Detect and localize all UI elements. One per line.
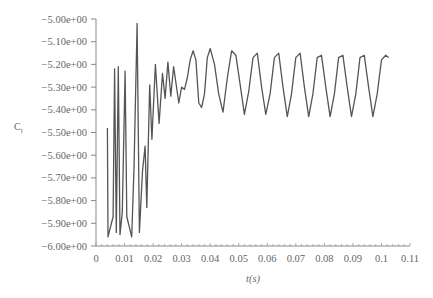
x-tick-label: 0.1 (375, 253, 388, 264)
x-tick-label: 0.09 (344, 253, 362, 264)
x-axis-title: t(s) (246, 273, 261, 285)
x-tick-label: 0.06 (258, 253, 276, 264)
y-tick-label: −5.80e+00 (42, 195, 87, 206)
lift-coefficient-chart: −5.00e+00−5.10e+00−5.20e+00−5.30e+00−5.4… (0, 0, 433, 298)
y-tick-label: −5.20e+00 (42, 59, 87, 70)
plot-area (107, 24, 388, 237)
y-tick-label: −5.40e+00 (42, 104, 87, 115)
x-tick-label: 0.07 (287, 253, 305, 264)
data-series-line (107, 24, 388, 237)
x-tick-label: 0.01 (115, 253, 133, 264)
x-tick-label: 0.03 (172, 253, 190, 264)
y-tick-label: −6.00e+00 (42, 241, 87, 252)
y-tick-label: −5.50e+00 (42, 127, 87, 138)
y-tick-label: −5.30e+00 (42, 82, 87, 93)
y-tick-label: −5.90e+00 (42, 218, 87, 229)
x-tick-label: 0.05 (230, 253, 248, 264)
y-tick-label: −5.60e+00 (42, 150, 87, 161)
y-tick-label: −5.00e+00 (42, 14, 87, 25)
y-axis-title: Cl (14, 121, 23, 135)
x-axis: 00.010.020.030.040.050.060.070.080.090.1… (93, 243, 419, 264)
x-tick-label: 0.08 (315, 253, 333, 264)
y-tick-label: −5.10e+00 (42, 36, 87, 47)
y-axis: −5.00e+00−5.10e+00−5.20e+00−5.30e+00−5.4… (42, 14, 96, 252)
x-tick-label: 0 (93, 253, 98, 264)
x-tick-label: 0.02 (144, 253, 162, 264)
x-tick-label: 0.04 (201, 253, 220, 264)
y-tick-label: −5.70e+00 (42, 172, 87, 183)
x-tick-label: 0.11 (401, 253, 419, 264)
